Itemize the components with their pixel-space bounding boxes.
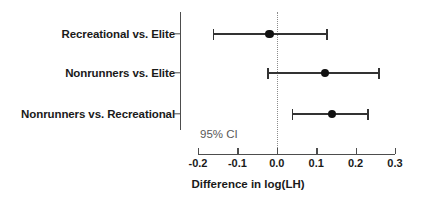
y-axis-tick-2 [174, 113, 180, 114]
ci-cap-upper [326, 29, 328, 40]
ci-cap-lower [267, 68, 269, 79]
category-label-nonrunners-vs-elite: Nonrunners vs. Elite [65, 67, 175, 79]
point-estimate-marker [321, 69, 330, 78]
x-axis-tick-0 [198, 148, 199, 154]
x-axis-tick-4 [356, 148, 357, 154]
confidence-level-annotation: 95% CI [200, 128, 238, 140]
ci-cap-upper [378, 68, 380, 79]
x-axis-tick-label-2: 0.0 [269, 157, 284, 169]
x-axis-spine [198, 154, 395, 155]
x-axis-tick-2 [277, 148, 278, 154]
x-axis-tick-label-3: 0.1 [309, 157, 324, 169]
category-label-recreational-vs-elite: Recreational vs. Elite [62, 28, 176, 40]
x-axis-tick-5 [395, 148, 396, 154]
ci-cap-upper [367, 109, 369, 120]
x-axis-title-wrap: Difference in log(LH) [0, 178, 422, 190]
x-axis-tick-label-5: 0.3 [387, 157, 402, 169]
x-axis-tick-label-0: -0.2 [189, 157, 208, 169]
x-axis-title: Difference in log(LH) [191, 178, 304, 190]
category-label-nonrunners-vs-recreational: Nonrunners vs. Recreational [21, 108, 175, 120]
point-estimate-marker [328, 110, 337, 119]
ci-cap-lower [213, 29, 215, 40]
y-axis-spine [180, 12, 181, 130]
x-axis-tick-label-1: -0.1 [228, 157, 247, 169]
y-axis-tick-0 [174, 33, 180, 34]
forest-plot-figure: Recreational vs. Elite Nonrunners vs. El… [0, 0, 422, 201]
x-axis-tick-3 [316, 148, 317, 154]
y-axis-tick-1 [174, 72, 180, 73]
ci-cap-lower [292, 109, 294, 120]
x-axis-tick-label-4: 0.2 [348, 157, 363, 169]
point-estimate-marker [265, 30, 274, 39]
x-axis-tick-1 [237, 148, 238, 154]
